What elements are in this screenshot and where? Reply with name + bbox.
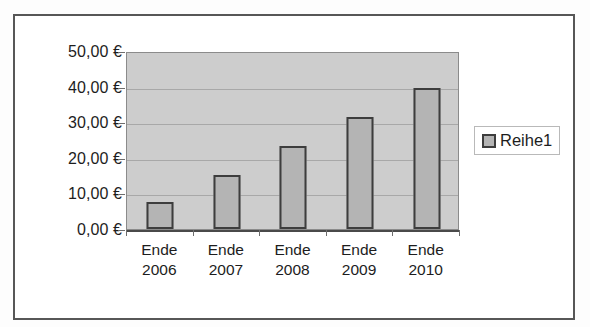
bar-ende-2010[interactable] (413, 88, 440, 229)
figure-frame: 50,00 € 40,00 € 30,00 € 20,00 € 10,00 € … (13, 14, 575, 320)
x-label-line-1: Ende (326, 240, 393, 260)
x-axis-tick-mark (193, 230, 194, 236)
x-axis-tick-mark (126, 230, 127, 236)
y-axis-tick-label: 50,00 € (30, 44, 122, 60)
bar-chart: 50,00 € 40,00 € 30,00 € 20,00 € 10,00 € … (15, 16, 577, 322)
x-label-line-1: Ende (126, 240, 193, 260)
y-axis-tick-label: 40,00 € (30, 80, 122, 96)
y-axis-tick-mark (118, 194, 125, 195)
y-axis-tick-mark (118, 88, 125, 89)
y-axis-tick-mark (118, 230, 125, 231)
x-label-line-2: 2007 (193, 260, 260, 280)
x-axis-tick-mark (459, 230, 460, 236)
bar-slot (194, 53, 261, 229)
y-axis-tick-label: 20,00 € (30, 151, 122, 167)
x-axis-tick-mark (392, 230, 393, 236)
x-label-line-1: Ende (259, 240, 326, 260)
x-label-line-2: 2006 (126, 260, 193, 280)
y-axis-tick-mark (118, 52, 125, 53)
legend-label-reihe1: Reihe1 (500, 132, 552, 149)
x-axis-category-label-2008: Ende 2008 (259, 240, 326, 280)
x-axis-tick-mark (326, 230, 327, 236)
y-axis-tick-mark (118, 123, 125, 124)
page-background: 50,00 € 40,00 € 30,00 € 20,00 € 10,00 € … (0, 0, 590, 327)
chart-legend[interactable]: Reihe1 (474, 126, 560, 155)
x-label-line-2: 2009 (326, 260, 393, 280)
x-axis-line (126, 230, 460, 232)
x-label-line-2: 2010 (392, 260, 459, 280)
x-label-line-1: Ende (193, 240, 260, 260)
plot-area (126, 52, 459, 230)
y-axis-tick-label: 30,00 € (30, 115, 122, 131)
bar-ende-2008[interactable] (280, 146, 307, 229)
x-axis-category-label-2006: Ende 2006 (126, 240, 193, 280)
x-axis: Ende 2006 Ende 2007 Ende 2008 Ende 2009 … (126, 240, 459, 296)
bar-slot (260, 53, 327, 229)
y-axis-tick-label: 10,00 € (30, 186, 122, 202)
bar-series-reihe1 (127, 53, 458, 229)
bar-ende-2009[interactable] (347, 117, 374, 229)
legend-swatch-icon (482, 134, 496, 148)
x-axis-category-label-2010: Ende 2010 (392, 240, 459, 280)
y-axis-tick-label: 0,00 € (30, 222, 122, 238)
bar-slot (327, 53, 394, 229)
x-label-line-2: 2008 (259, 260, 326, 280)
bar-slot (393, 53, 460, 229)
x-axis-category-label-2007: Ende 2007 (193, 240, 260, 280)
x-axis-tick-mark (259, 230, 260, 236)
x-axis-category-label-2009: Ende 2009 (326, 240, 393, 280)
bar-ende-2006[interactable] (147, 202, 174, 229)
y-axis-tick-mark (118, 159, 125, 160)
y-axis: 50,00 € 40,00 € 30,00 € 20,00 € 10,00 € … (19, 52, 122, 230)
x-label-line-1: Ende (392, 240, 459, 260)
bar-slot (127, 53, 194, 229)
bar-ende-2007[interactable] (213, 175, 240, 229)
